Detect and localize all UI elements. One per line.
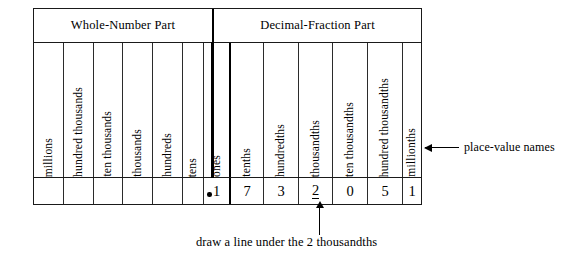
place-value-label-tenths: tenths (241, 144, 253, 177)
place-value-label-thousandths: thousandths (310, 116, 322, 177)
digit-ones: 1 (213, 183, 220, 200)
place-value-label-thousands: thousands (132, 125, 144, 177)
annotation-right-text: place-value names (464, 140, 555, 155)
digit-cell-hundred-thousands (64, 178, 94, 204)
place-value-label-ten-thousandths: ten thousandths (344, 98, 356, 177)
place-value-cell-hundreds: hundreds (153, 43, 183, 177)
place-value-name-row: millions hundred thousands ten thousands… (34, 43, 421, 178)
digit-hundredths: 3 (277, 183, 284, 200)
annotation-bottom-text: draw a line under the 2 thousandths (196, 235, 377, 250)
place-value-cell-hundredths: hundredths (264, 43, 299, 177)
group-header-decimal-fraction: Decimal-Fraction Part (214, 9, 421, 42)
digit-cell-millions (34, 178, 64, 204)
place-value-cell-tenths: tenths (231, 43, 264, 177)
annotation-place-value-names: place-value names (425, 140, 555, 155)
digit-cell-hundred-thousandths: 5 (368, 178, 403, 204)
digit-millionths: 1 (408, 183, 415, 200)
digit-cell-ones: 1 (204, 178, 231, 204)
place-value-cell-ones: ones (204, 43, 231, 177)
place-value-label-tens: tens (187, 154, 199, 177)
arrow-left-icon (425, 147, 459, 148)
place-value-label-hundred-thousands: hundred thousands (73, 83, 85, 177)
place-value-label-hundred-thousandths: hundred thousandths (379, 74, 391, 177)
digit-cell-hundredths: 3 (264, 178, 299, 204)
digit-row: 1 7 3 2 0 5 1 (34, 178, 421, 204)
place-value-cell-thousandths: thousandths (299, 43, 333, 177)
place-value-label-ten-thousands: ten thousands (102, 107, 114, 177)
place-value-cell-hundred-thousandths: hundred thousandths (368, 43, 403, 177)
digit-cell-millionths: 1 (403, 178, 421, 204)
place-value-cell-ten-thousandths: ten thousandths (333, 43, 368, 177)
decimal-divider-line (211, 42, 214, 178)
place-value-label-hundreds: hundreds (162, 129, 174, 177)
group-header-row: Whole-Number Part Decimal-Fraction Part (34, 9, 421, 43)
digit-cell-ten-thousands (94, 178, 123, 204)
digit-hundred-thousandths: 5 (381, 183, 388, 200)
place-value-cell-hundred-thousands: hundred thousands (64, 43, 94, 177)
place-value-label-millions: millions (43, 134, 55, 177)
decimal-point-marker (207, 192, 212, 197)
place-value-cell-millionths: millionths (403, 43, 421, 177)
place-value-chart: Whole-Number Part Decimal-Fraction Part … (33, 8, 422, 205)
digit-cell-hundreds (153, 178, 183, 204)
place-value-cell-millions: millions (34, 43, 64, 177)
digit-cell-tens (183, 178, 204, 204)
place-value-label-hundredths: hundredths (275, 120, 287, 177)
digit-thousandths-underlined: 2 (312, 183, 319, 200)
group-header-whole-number: Whole-Number Part (34, 9, 214, 42)
digit-cell-tenths: 7 (231, 178, 264, 204)
place-value-cell-tens: tens (183, 43, 204, 177)
place-value-cell-thousands: thousands (123, 43, 153, 177)
place-value-label-millionths: millionths (406, 124, 418, 177)
digit-cell-thousands (123, 178, 153, 204)
place-value-cell-ten-thousands: ten thousands (94, 43, 123, 177)
digit-cell-ten-thousandths: 0 (333, 178, 368, 204)
callout-leader-line (319, 207, 320, 235)
digit-ten-thousandths: 0 (346, 183, 353, 200)
digit-tenths: 7 (243, 183, 250, 200)
